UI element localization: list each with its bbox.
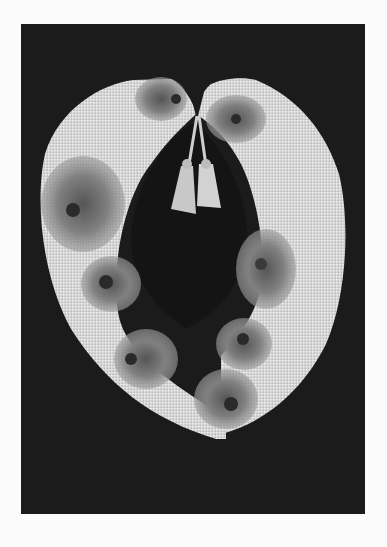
photograph bbox=[21, 24, 365, 514]
collar-illustration bbox=[21, 24, 365, 514]
